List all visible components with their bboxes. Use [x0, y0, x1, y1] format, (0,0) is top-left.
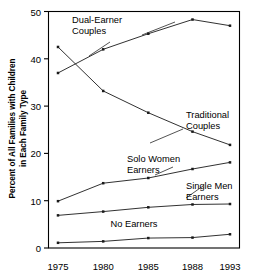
annotation-traditional-couples: Traditional Couples [186, 110, 229, 131]
data-point [229, 161, 232, 164]
annotation-solo-women-earners: Solo Women Earners [127, 154, 180, 175]
annotation-single-men-earners-line-2: Earners [186, 192, 219, 202]
y-tick-label-30: 30 [30, 101, 41, 112]
data-point [191, 203, 194, 206]
data-point [57, 200, 60, 203]
data-point [57, 72, 60, 75]
series-line [58, 234, 230, 243]
annotation-single-men-earners: Single Men Earners [186, 181, 233, 202]
data-point [102, 182, 105, 185]
data-point [147, 111, 150, 114]
y-tick-label-10: 10 [30, 196, 41, 207]
data-point [191, 236, 194, 239]
x-axis-tick-labels: 1975 1980 1985 1988 1993 [47, 261, 240, 272]
series-single-men-earners [57, 203, 232, 217]
annotation-solo-women-earners-line-1: Solo Women [127, 154, 180, 164]
x-tick-label-1988: 1988 [182, 261, 203, 272]
x-tick-label-1985: 1985 [138, 261, 159, 272]
data-point [102, 90, 105, 93]
x-tick-label-1975: 1975 [47, 261, 68, 272]
data-point [147, 237, 150, 240]
chart-container: Percent of All Families with Children in… [0, 0, 253, 280]
data-point [229, 24, 232, 27]
y-tick-label-40: 40 [30, 54, 41, 65]
series-line [58, 204, 230, 215]
data-point [191, 18, 194, 21]
annotation-no-earners: No Earners [110, 219, 157, 229]
annotation-dual-earner-couples: Dual-Earner Couples [72, 15, 122, 36]
data-point [229, 203, 232, 206]
x-tick-label-1980: 1980 [93, 261, 114, 272]
annotation-traditional-couples-line-2: Couples [186, 121, 220, 131]
data-point [102, 210, 105, 213]
y-tick-label-20: 20 [30, 148, 41, 159]
data-point [147, 177, 150, 180]
data-point [57, 46, 60, 49]
series-layer [57, 18, 232, 244]
x-tick-label-1993: 1993 [219, 261, 240, 272]
y-axis-ticks [44, 12, 49, 249]
data-point [57, 242, 60, 245]
leader-dual-earner-right [142, 22, 175, 35]
y-tick-label-0: 0 [36, 243, 41, 254]
data-point [102, 240, 105, 243]
annotation-dual-earner-couples-line-2: Couples [72, 26, 106, 36]
annotation-traditional-couples-line-1: Traditional [186, 110, 229, 120]
data-point [229, 144, 232, 147]
data-point [102, 48, 105, 51]
y-axis-tick-labels: 50 40 30 20 10 0 [30, 7, 41, 254]
annotation-single-men-earners-line-1: Single Men [186, 181, 233, 191]
leader-dual-earner-left [89, 42, 110, 56]
annotation-solo-women-earners-line-2: Earners [127, 165, 160, 175]
data-point [147, 206, 150, 209]
y-tick-label-50: 50 [30, 7, 41, 18]
series-no-earners [57, 233, 232, 244]
leader-traditional-couples [150, 129, 183, 143]
annotation-no-earners-line-1: No Earners [110, 219, 157, 229]
data-point [191, 168, 194, 171]
data-point [57, 214, 60, 217]
data-point [229, 233, 232, 236]
series-traditional-couples [57, 46, 232, 146]
annotation-dual-earner-couples-line-1: Dual-Earner [72, 15, 122, 25]
chart-svg: 50 40 30 20 10 0 1975 1980 1985 1988 199… [0, 0, 253, 280]
